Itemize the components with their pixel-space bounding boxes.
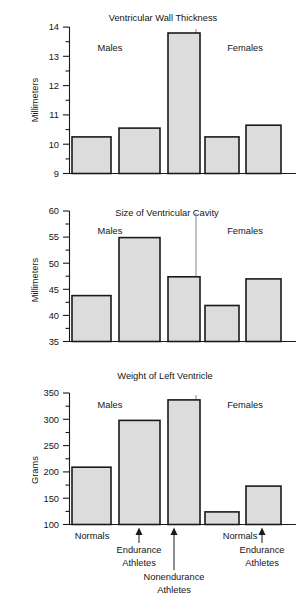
- y-tick-label-1-4: 13: [49, 52, 59, 62]
- y-ticks-minor-3: [66, 406, 70, 511]
- bar-1-endurance-females: [246, 125, 281, 173]
- y-tick-label-3-0: 100: [43, 520, 59, 530]
- y-tick-label-2-1: 40: [49, 311, 59, 321]
- y-ticks-minor-2: [66, 224, 70, 328]
- y-tick-label-2-4: 55: [49, 232, 59, 242]
- y-tick-label-3-1: 150: [43, 494, 59, 504]
- bar-1-normals-males: [72, 137, 111, 174]
- bar-3-endurance-females: [246, 486, 281, 524]
- group-label-males-1: Males: [98, 43, 123, 53]
- y-tick-label-1-0: 9: [54, 169, 59, 179]
- bar-3-normals-females: [205, 512, 239, 525]
- x-label-endurance-males-line2: Athletes: [122, 558, 156, 568]
- bar-3-nonendurance-males: [168, 400, 200, 525]
- chart-svg-2: Size of Ventricular Cavity 35 40 45: [0, 195, 304, 355]
- pointer-nonendurance-males: [171, 528, 178, 571]
- y-tick-label-1-5: 14: [49, 22, 59, 32]
- bar-1-nonendurance-males: [168, 33, 200, 174]
- y-tick-label-1-3: 12: [49, 81, 59, 91]
- bar-2-normals-males: [72, 296, 111, 342]
- y-tick-label-1-2: 11: [49, 110, 59, 120]
- y-axis-title-1: Millimeters: [30, 77, 40, 122]
- group-label-females-1: Females: [227, 43, 263, 53]
- y-tick-label-3-4: 300: [43, 415, 59, 425]
- y-tick-label-1-1: 10: [49, 140, 59, 150]
- bar-3-normals-males: [72, 467, 111, 524]
- y-tick-label-2-0: 35: [49, 337, 59, 347]
- pointer-endurance-females: [259, 528, 266, 544]
- bar-1-normals-females: [205, 137, 239, 174]
- bar-2-normals-females: [205, 306, 239, 342]
- y-tick-label-2-5: 60: [49, 206, 59, 216]
- figure-container: Ventricular Wall Thickness 9: [0, 0, 304, 615]
- bar-3-endurance-males: [119, 420, 160, 524]
- chart-title-1: Ventricular Wall Thickness: [109, 13, 218, 23]
- x-label-endurance-males-line1: Endurance: [117, 545, 162, 555]
- group-label-males-2: Males: [98, 226, 123, 236]
- pointer-endurance-males: [136, 528, 143, 544]
- x-label-normals-males: Normals: [75, 531, 110, 541]
- y-tick-label-3-2: 200: [43, 467, 59, 477]
- group-label-males-3: Males: [98, 400, 123, 410]
- chart-panel-size-of-ventricular-cavity: Size of Ventricular Cavity 35 40 45: [0, 195, 304, 355]
- bar-1-endurance-males: [119, 128, 160, 173]
- chart-title-2: Size of Ventricular Cavity: [115, 208, 219, 218]
- chart-svg-3: Weight of Left Ventricle 100 150 200: [0, 355, 304, 615]
- y-tick-label-2-3: 50: [49, 259, 59, 269]
- bar-2-nonendurance-males: [168, 277, 200, 342]
- chart-panel-ventricular-wall-thickness: Ventricular Wall Thickness 9: [0, 0, 304, 195]
- y-tick-label-3-5: 350: [43, 388, 59, 398]
- y-axis-title-2: Millimeters: [30, 257, 40, 302]
- group-label-females-3: Females: [227, 400, 263, 410]
- x-label-nonendurance-line2: Athletes: [157, 585, 191, 595]
- x-label-nonendurance-line1: Nonendurance: [144, 572, 205, 582]
- bar-2-endurance-females: [246, 279, 281, 342]
- chart-svg-1: Ventricular Wall Thickness 9: [0, 0, 304, 195]
- x-label-normals-females: Normals: [223, 531, 258, 541]
- y-axis-title-3: Grams: [30, 456, 40, 484]
- bar-2-endurance-males: [119, 238, 160, 342]
- y-ticks-minor-1: [66, 42, 70, 159]
- y-tick-label-2-2: 45: [49, 285, 59, 295]
- y-tick-label-3-3: 250: [43, 441, 59, 451]
- chart-panel-weight-of-left-ventricle: Weight of Left Ventricle 100 150 200: [0, 355, 304, 615]
- x-label-endurance-females-line1: Endurance: [240, 545, 285, 555]
- chart-title-3: Weight of Left Ventricle: [117, 371, 212, 381]
- x-label-endurance-females-line2: Athletes: [245, 558, 279, 568]
- group-label-females-2: Females: [227, 226, 263, 236]
